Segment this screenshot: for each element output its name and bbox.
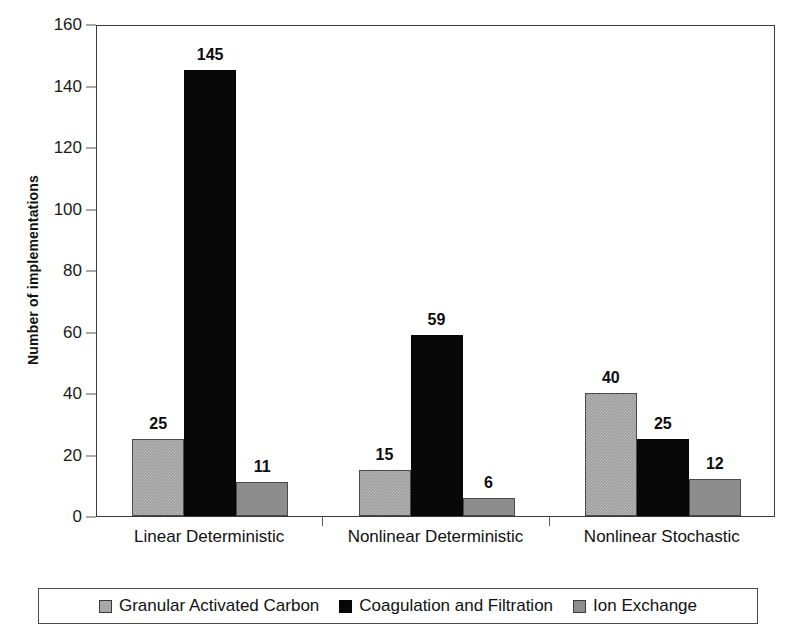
y-tick-label: 120 xyxy=(54,138,82,158)
legend-label: Ion Exchange xyxy=(593,596,697,616)
x-tick-mark xyxy=(549,517,550,526)
y-tick-mark xyxy=(86,271,96,272)
legend-swatch-icon xyxy=(99,600,112,613)
y-axis-ticks: 160140120100806040200 xyxy=(0,25,96,517)
bar xyxy=(184,70,236,516)
legend-swatch-icon xyxy=(339,600,352,613)
x-category-label: Linear Deterministic xyxy=(134,527,284,547)
y-tick-mark xyxy=(86,455,96,456)
bar xyxy=(637,439,689,516)
bar-value-label: 40 xyxy=(602,369,620,387)
bar-value-label: 11 xyxy=(254,458,271,476)
y-tick-label: 20 xyxy=(63,446,82,466)
y-tick-mark xyxy=(86,394,96,395)
chart-legend: Granular Activated CarbonCoagulation and… xyxy=(38,588,758,624)
bar-value-label: 12 xyxy=(706,455,724,473)
bar-value-label: 145 xyxy=(197,46,224,64)
bar xyxy=(132,439,184,516)
bar xyxy=(359,470,411,516)
bar xyxy=(236,482,288,516)
bars-container: 251451115596402512 xyxy=(97,26,774,516)
x-category-label: Nonlinear Deterministic xyxy=(348,527,524,547)
y-tick-label: 80 xyxy=(63,261,82,281)
legend-label: Granular Activated Carbon xyxy=(119,596,319,616)
plot-area: 251451115596402512 xyxy=(96,25,775,517)
bar-value-label: 25 xyxy=(654,415,672,433)
y-tick-mark xyxy=(86,25,96,26)
y-tick-label: 40 xyxy=(63,384,82,404)
bar-value-label: 6 xyxy=(484,474,493,492)
bar-value-label: 59 xyxy=(428,311,446,329)
y-tick-label: 160 xyxy=(54,15,82,35)
bar-value-label: 25 xyxy=(149,415,167,433)
bar-chart: Number of implementations 16014012010080… xyxy=(0,0,795,644)
legend-item: Granular Activated Carbon xyxy=(99,596,319,616)
y-tick-label: 100 xyxy=(54,200,82,220)
legend-label: Coagulation and Filtration xyxy=(359,596,553,616)
x-category-label: Nonlinear Stochastic xyxy=(584,527,740,547)
y-tick-mark xyxy=(86,517,96,518)
bar xyxy=(689,479,741,516)
y-tick-mark xyxy=(86,86,96,87)
legend-swatch-icon xyxy=(573,600,586,613)
y-tick-label: 140 xyxy=(54,77,82,97)
bar xyxy=(411,335,463,516)
y-tick-mark xyxy=(86,332,96,333)
bar xyxy=(463,498,515,516)
y-tick-label: 60 xyxy=(63,323,82,343)
y-tick-mark xyxy=(86,209,96,210)
x-tick-mark xyxy=(322,517,323,526)
y-tick-mark xyxy=(86,148,96,149)
legend-item: Ion Exchange xyxy=(573,596,697,616)
bar-value-label: 15 xyxy=(376,446,394,464)
legend-item: Coagulation and Filtration xyxy=(339,596,553,616)
y-tick-label: 0 xyxy=(73,507,82,527)
bar xyxy=(585,393,637,516)
